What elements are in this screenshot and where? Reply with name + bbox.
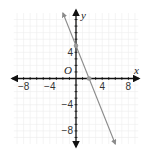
x-tick-label: 8 [126, 81, 132, 92]
y-tick-label: −4 [62, 99, 74, 110]
y-tick-label: −8 [62, 125, 74, 136]
origin-label: O [64, 64, 72, 76]
x-axis-label: x [133, 64, 139, 76]
x-tick-label: 4 [99, 81, 105, 92]
data-point [87, 76, 92, 81]
y-tick-label: 4 [67, 47, 73, 58]
coordinate-plane: −8−4484−4−8 x y O [0, 0, 147, 155]
x-tick-label: −8 [18, 81, 30, 92]
y-axis-label: y [80, 9, 86, 21]
x-tick-label: −4 [44, 81, 56, 92]
data-point [74, 43, 79, 48]
